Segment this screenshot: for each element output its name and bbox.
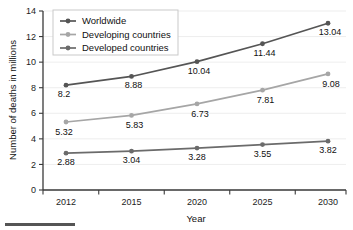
data-point [260,88,265,93]
legend[interactable]: WorldwideDeveloping countriesDeveloped c… [53,10,178,55]
legend-marker-dot [66,32,71,37]
data-point [64,83,69,88]
x-axis-title: Year [186,213,205,224]
data-point [326,72,331,77]
legend-label-1[interactable]: Worldwide [82,15,126,26]
x-tick-label: 2020 [187,197,207,207]
y-tick-label: 2 [31,160,36,170]
footer-bar-artifact [5,223,75,226]
x-tick-label: 2025 [252,197,272,207]
data-point [129,74,134,79]
data-label: 7.81 [257,95,275,105]
chart-canvas: 02468101214 20122015202020252030 Number … [0,0,353,230]
data-label: 11.44 [254,48,276,58]
data-label: 6.73 [191,109,209,119]
data-point [195,102,200,107]
y-tick-label: 4 [31,134,36,144]
y-tick-label: 12 [26,32,36,42]
data-label: 5.83 [126,120,144,130]
x-axis: 20122015202020252030 [43,190,346,207]
data-label: 8.88 [125,80,143,90]
legend-marker-dot [66,19,71,24]
data-label: 13.04 [319,27,342,37]
legend-label-2[interactable]: Developing countries [82,29,171,40]
x-tick-label: 2015 [121,197,141,207]
legend-marker-dot [66,46,71,51]
legend-label-3[interactable]: Developed countries [82,42,169,53]
data-label: 2.88 [57,157,75,167]
data-point [129,149,134,154]
data-label: 9.08 [322,79,340,89]
y-tick-label: 0 [31,185,36,195]
data-point [64,120,69,125]
data-point [326,139,331,144]
y-tick-label: 10 [26,57,36,67]
x-tick-label: 2030 [318,197,338,207]
data-point [195,146,200,151]
data-point [326,21,331,26]
y-tick-label: 8 [31,83,36,93]
data-label: 8.2 [58,89,71,99]
data-point [64,151,69,156]
y-tick-label: 6 [31,108,36,118]
data-point [129,113,134,118]
data-point [195,59,200,64]
data-label: 3.04 [123,155,141,165]
data-label: 3.55 [254,149,272,159]
line-chart: 02468101214 20122015202020252030 Number … [0,0,353,230]
x-tick-label: 2012 [56,197,76,207]
y-tick-label: 14 [26,6,36,16]
data-label: 10.04 [188,66,211,76]
y-axis: 02468101214 [26,6,43,195]
data-label: 5.32 [55,127,73,137]
data-label: 3.28 [188,152,206,162]
data-point [260,142,265,147]
data-label: 3.82 [319,145,337,155]
y-axis-title: Number of deaths in millions [7,40,18,160]
data-point [260,41,265,46]
